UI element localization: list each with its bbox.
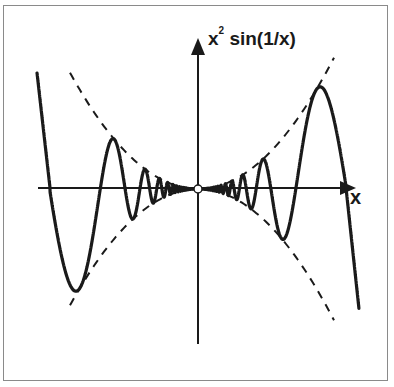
origin-open-circle	[194, 185, 202, 193]
envelope-lower-dashed	[70, 189, 334, 320]
envelope-upper-dashed	[70, 58, 334, 189]
y-axis-label: x2 sin(1/x)	[208, 28, 296, 50]
y-label-base: x	[208, 28, 219, 49]
y-label-exponent: 2	[219, 25, 225, 36]
x-axis-label: x	[350, 186, 361, 209]
y-label-function: sin(1/x)	[224, 28, 296, 49]
y-axis-arrow-icon	[191, 38, 205, 55]
plot-area	[0, 0, 394, 387]
